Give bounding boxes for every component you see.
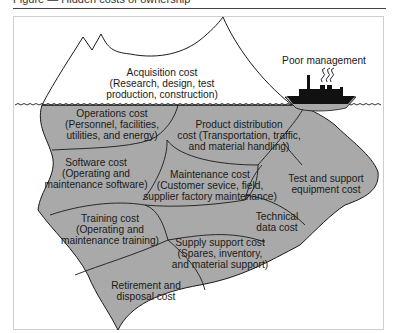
ship-icon: [285, 68, 356, 111]
maintenance-cost-label: Maintenance cost (Customer sevice, field…: [143, 169, 277, 202]
test-support-cost-label: Test and support equipment cost: [288, 173, 363, 195]
acquisition-cost-label: Acquisition cost (Research, design, test…: [106, 67, 218, 100]
ship-label: Poor management: [282, 55, 366, 66]
operations-cost-label: Operations cost (Personnel, facilities, …: [65, 108, 159, 141]
retirement-disposal-cost-label: Retirement and disposal cost: [111, 280, 181, 302]
training-cost-label: Training cost (Operating and maintenance…: [61, 213, 159, 246]
supply-support-cost-label: Supply support cost (Spares, inventory, …: [172, 237, 268, 270]
technical-data-cost-label: Technical data cost: [256, 211, 298, 233]
software-cost-label: Software cost (Operating and maintenance…: [44, 157, 147, 190]
product-distribution-cost-label: Product distribution cost (Transportatio…: [177, 119, 300, 152]
